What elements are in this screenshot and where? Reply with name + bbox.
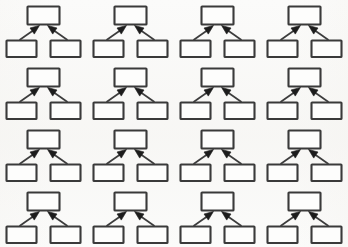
arrowhead-right-icon: [309, 25, 319, 34]
diagram-svg: [261, 186, 348, 247]
convergence-diagram-unit: [87, 0, 174, 62]
diagram-svg: [174, 186, 261, 247]
node-box-bottom-left: [181, 227, 211, 244]
arrowhead-right-icon: [135, 87, 145, 96]
node-box-bottom-left: [94, 165, 124, 182]
node-box-bottom-right: [312, 165, 342, 182]
node-box-bottom-right: [51, 165, 81, 182]
node-box-bottom-left: [94, 103, 124, 120]
convergence-diagram-unit: [0, 186, 87, 247]
diagram-svg: [0, 0, 87, 62]
arrowhead-left-icon: [117, 211, 127, 220]
node-box-bottom-left: [268, 103, 298, 120]
node-box-bottom-right: [225, 41, 255, 58]
arrowhead-right-icon: [48, 211, 58, 220]
diagram-svg: [174, 124, 261, 186]
arrowhead-left-icon: [30, 25, 40, 34]
arrowhead-right-icon: [309, 211, 319, 220]
node-box-bottom-right: [138, 227, 168, 244]
node-box-top: [202, 131, 234, 149]
convergence-diagram-unit: [0, 62, 87, 124]
convergence-diagram-unit: [261, 0, 348, 62]
node-box-bottom-left: [181, 103, 211, 120]
node-box-top: [289, 131, 321, 149]
node-box-bottom-left: [7, 165, 37, 182]
arrowhead-right-icon: [309, 149, 319, 158]
node-box-bottom-left: [268, 227, 298, 244]
node-box-top: [28, 7, 60, 25]
node-box-bottom-right: [312, 103, 342, 120]
arrowhead-right-icon: [222, 25, 232, 34]
arrowhead-right-icon: [222, 87, 232, 96]
node-box-top: [28, 69, 60, 87]
node-box-bottom-left: [94, 227, 124, 244]
node-box-top: [289, 193, 321, 211]
diagram-page: [0, 0, 348, 247]
diagram-svg: [261, 0, 348, 62]
node-box-top: [202, 69, 234, 87]
node-box-bottom-left: [268, 165, 298, 182]
node-box-bottom-right: [312, 227, 342, 244]
arrowhead-right-icon: [135, 211, 145, 220]
convergence-diagram-unit: [174, 62, 261, 124]
diagram-svg: [87, 62, 174, 124]
node-box-bottom-right: [138, 41, 168, 58]
convergence-diagram-unit: [261, 186, 348, 247]
node-box-top: [115, 7, 147, 25]
diagram-svg: [0, 124, 87, 186]
diagram-svg: [0, 62, 87, 124]
arrowhead-left-icon: [204, 211, 214, 220]
node-box-bottom-left: [181, 41, 211, 58]
arrowhead-left-icon: [30, 211, 40, 220]
node-box-bottom-left: [181, 165, 211, 182]
arrowhead-left-icon: [204, 149, 214, 158]
node-box-bottom-left: [94, 41, 124, 58]
diagram-grid: [0, 0, 348, 247]
node-box-bottom-right: [51, 103, 81, 120]
node-box-bottom-right: [225, 165, 255, 182]
arrowhead-left-icon: [117, 87, 127, 96]
node-box-top: [289, 7, 321, 25]
convergence-diagram-unit: [0, 124, 87, 186]
node-box-top: [202, 193, 234, 211]
convergence-diagram-unit: [261, 124, 348, 186]
node-box-bottom-left: [7, 103, 37, 120]
node-box-top: [115, 193, 147, 211]
arrowhead-left-icon: [204, 87, 214, 96]
arrowhead-left-icon: [204, 25, 214, 34]
node-box-top: [115, 131, 147, 149]
arrowhead-right-icon: [222, 211, 232, 220]
convergence-diagram-unit: [87, 124, 174, 186]
arrowhead-right-icon: [48, 25, 58, 34]
node-box-bottom-right: [225, 227, 255, 244]
node-box-top: [115, 69, 147, 87]
convergence-diagram-unit: [0, 0, 87, 62]
arrowhead-left-icon: [291, 211, 301, 220]
node-box-bottom-right: [51, 41, 81, 58]
arrowhead-left-icon: [291, 25, 301, 34]
convergence-diagram-unit: [174, 124, 261, 186]
diagram-svg: [174, 62, 261, 124]
diagram-svg: [87, 124, 174, 186]
arrowhead-left-icon: [30, 87, 40, 96]
diagram-svg: [0, 186, 87, 247]
arrowhead-right-icon: [135, 149, 145, 158]
node-box-bottom-right: [138, 165, 168, 182]
node-box-bottom-left: [7, 41, 37, 58]
arrowhead-right-icon: [222, 149, 232, 158]
arrowhead-right-icon: [135, 25, 145, 34]
diagram-svg: [261, 62, 348, 124]
convergence-diagram-unit: [87, 186, 174, 247]
node-box-bottom-right: [138, 103, 168, 120]
arrowhead-left-icon: [117, 149, 127, 158]
arrowhead-right-icon: [48, 87, 58, 96]
node-box-bottom-right: [51, 227, 81, 244]
node-box-bottom-left: [268, 41, 298, 58]
node-box-bottom-left: [7, 227, 37, 244]
convergence-diagram-unit: [87, 62, 174, 124]
arrowhead-left-icon: [291, 149, 301, 158]
node-box-top: [202, 7, 234, 25]
arrowhead-left-icon: [291, 87, 301, 96]
node-box-top: [28, 193, 60, 211]
convergence-diagram-unit: [174, 0, 261, 62]
